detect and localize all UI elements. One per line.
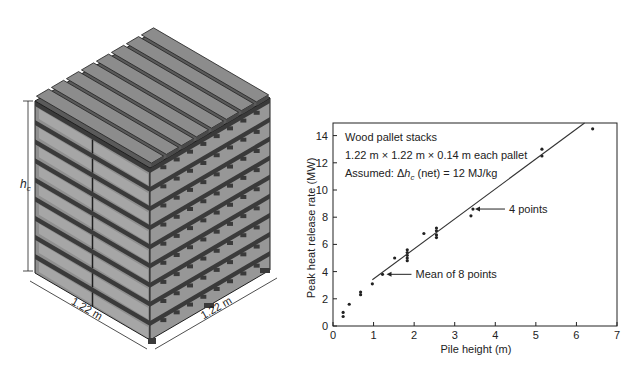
block [227, 241, 233, 245]
x-tick-label: 5 [533, 329, 539, 341]
y-tick-label: 0 [322, 320, 328, 332]
block [240, 119, 246, 123]
data-point [359, 293, 362, 296]
data-point [435, 226, 438, 229]
block [187, 150, 193, 154]
block [174, 291, 180, 295]
block [200, 142, 206, 146]
block [160, 318, 166, 322]
x-tick-label: 7 [614, 329, 620, 341]
data-point [469, 214, 472, 217]
block [227, 184, 233, 188]
block [240, 195, 246, 199]
block [240, 138, 246, 142]
x-tick-label: 6 [573, 329, 579, 341]
block [200, 218, 206, 222]
block [187, 264, 193, 268]
block [254, 111, 260, 115]
annotation-line-1: Wood pallet stacks [345, 131, 438, 143]
block [254, 245, 260, 249]
y-tick-label: 10 [316, 184, 328, 196]
arrowhead-icon [475, 207, 480, 212]
block [240, 271, 246, 275]
block [200, 199, 206, 203]
height-label: hc [20, 177, 31, 193]
block [240, 157, 246, 161]
data-point [371, 282, 374, 285]
x-tick-label: 4 [492, 329, 498, 341]
block [200, 257, 206, 261]
data-point [342, 315, 345, 318]
block [174, 215, 180, 219]
data-point [422, 232, 425, 235]
data-point [406, 256, 409, 259]
foot [260, 268, 270, 273]
block [214, 211, 220, 215]
block [227, 165, 233, 169]
annotation-mean-8-points: Mean of 8 points [415, 268, 497, 280]
block [227, 260, 233, 264]
annotation-4-points: 4 points [509, 203, 548, 215]
heat-release-chart: 0123456702468101214 Wood pallet stacks 1… [300, 80, 639, 371]
pallet-stack-illustration: hc1.22 m1.22 m [0, 0, 300, 371]
block [214, 191, 220, 195]
y-axis-label: Peak heat release rate (MW) [305, 158, 317, 299]
block [227, 279, 233, 283]
block [200, 237, 206, 241]
block [214, 134, 220, 138]
block [227, 203, 233, 207]
block [200, 276, 206, 280]
y-tick-label: 6 [322, 238, 328, 250]
y-tick-label: 2 [322, 293, 328, 305]
block [227, 222, 233, 226]
block [227, 126, 233, 130]
block [214, 230, 220, 234]
block [254, 168, 260, 172]
y-tick-label: 8 [322, 211, 328, 223]
data-point [406, 248, 409, 251]
x-tick-label: 2 [411, 329, 417, 341]
y-tick-label: 14 [316, 130, 328, 142]
block [160, 280, 166, 284]
block [254, 264, 260, 268]
block [187, 245, 193, 249]
block [200, 161, 206, 165]
x-axis-label: Pile height (m) [441, 343, 512, 355]
block [160, 203, 166, 207]
annotation-line-3: Assumed: Δhc (net) = 12 MJ/kg [345, 167, 497, 182]
block [174, 272, 180, 276]
block [227, 145, 233, 149]
block [254, 187, 260, 191]
block [214, 249, 220, 253]
block [187, 226, 193, 230]
block [187, 207, 193, 211]
data-point [406, 259, 409, 262]
block [214, 172, 220, 176]
data-point [471, 207, 474, 210]
data-point [348, 303, 351, 306]
block [160, 223, 166, 227]
annotation-line-2: 1.22 m × 1.22 m × 0.14 m each pallet [345, 149, 527, 161]
block [174, 234, 180, 238]
data-point [342, 311, 345, 314]
x-tick-label: 0 [330, 329, 336, 341]
block [174, 157, 180, 161]
foot [148, 338, 156, 344]
block [200, 180, 206, 184]
fit-line [372, 123, 584, 280]
block [160, 261, 166, 265]
block [160, 242, 166, 246]
block [240, 252, 246, 256]
block [174, 196, 180, 200]
y-tick-label: 12 [316, 157, 328, 169]
pallet-stack [35, 28, 270, 344]
data-point [393, 256, 396, 259]
block [200, 295, 206, 299]
block [187, 169, 193, 173]
block [240, 214, 246, 218]
x-tick-label: 1 [371, 329, 377, 341]
block [254, 130, 260, 134]
arrowhead-icon [386, 272, 391, 277]
block [187, 303, 193, 307]
block [174, 177, 180, 181]
